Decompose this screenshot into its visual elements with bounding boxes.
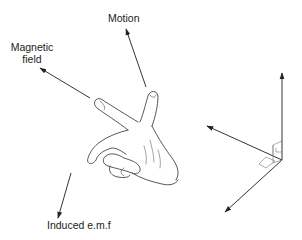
induced-emf-label: Induced e.m.f	[47, 219, 111, 231]
magnetic-field-label-line2: field	[6, 53, 58, 65]
axes-diagram	[207, 73, 282, 212]
diagram-canvas	[0, 0, 302, 240]
magnetic-field-label-line1: Magnetic	[6, 41, 58, 53]
hand-illustration	[88, 92, 178, 185]
magnetic-field-arrow	[40, 68, 90, 98]
magnetic-field-label: Magnetic field	[6, 41, 58, 65]
axis-left-arrow	[207, 126, 282, 160]
motion-label: Motion	[108, 12, 140, 24]
motion-arrow	[126, 29, 146, 87]
axis-down-left-arrow	[225, 160, 282, 212]
induced-emf-arrow	[58, 173, 71, 218]
